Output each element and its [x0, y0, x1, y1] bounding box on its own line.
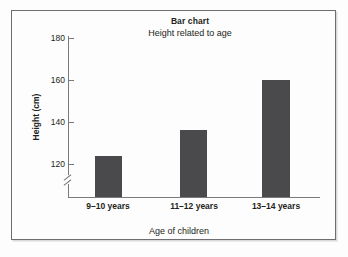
x-axis-title: Age of children: [94, 226, 264, 236]
y-axis-tick-label-120: 120: [39, 159, 65, 169]
chart-title: Bar chart: [100, 16, 280, 26]
x-axis-tick-label-0: 9–10 years: [70, 201, 146, 211]
plot-area: Bar chart Height related to age 180 160 …: [0, 0, 348, 257]
y-axis-line: [68, 36, 69, 198]
x-axis-line: [68, 197, 320, 198]
chart-subtitle: Height related to age: [90, 28, 290, 38]
y-axis-tick-label-160: 160: [39, 75, 65, 85]
bar-13-14-years[interactable]: [262, 80, 290, 197]
x-axis-tick-label-1: 11–12 years: [156, 201, 232, 211]
bar-9-10-years[interactable]: [95, 156, 122, 197]
y-axis-tick-label-140: 140: [39, 117, 65, 127]
y-axis-tick-180: [69, 38, 74, 39]
y-axis-tick-160: [69, 80, 74, 81]
y-axis-tick-120: [69, 164, 74, 165]
bar-11-12-years[interactable]: [180, 130, 207, 197]
figure-container: Bar chart Height related to age 180 160 …: [0, 0, 348, 257]
y-axis-title: Height (cm): [31, 77, 41, 157]
y-axis-tick-label-180: 180: [39, 33, 65, 43]
x-axis-tick-label-2: 13–14 years: [238, 201, 314, 211]
y-axis-tick-140: [69, 122, 74, 123]
